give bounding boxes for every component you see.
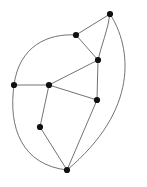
graph-edge [14, 35, 76, 85]
graph-vertex [107, 11, 113, 17]
graph-edge [76, 35, 98, 60]
graph-drawing [0, 0, 147, 187]
graph-vertex [11, 82, 17, 88]
graph-edge [97, 60, 98, 100]
graph-vertex [64, 167, 70, 173]
graph-edge [40, 85, 49, 127]
figure-container [0, 0, 147, 187]
caption-strip [0, 177, 147, 187]
graph-edge [67, 100, 97, 170]
graph-vertex [73, 32, 79, 38]
graph-vertex [94, 97, 100, 103]
graph-edge [49, 60, 98, 85]
graph-vertex [95, 57, 101, 63]
edge-layer [13, 14, 125, 170]
graph-vertex [46, 82, 52, 88]
graph-edge [76, 14, 110, 35]
graph-edge [49, 85, 97, 100]
graph-vertex [37, 124, 43, 130]
graph-edge [98, 14, 110, 60]
